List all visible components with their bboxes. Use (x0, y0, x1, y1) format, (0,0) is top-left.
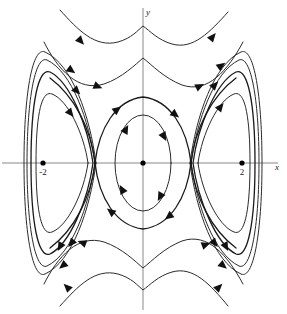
fixed-point-center-origin (140, 160, 145, 165)
tick-label-minus-two: -2 (39, 167, 47, 177)
fixed-point-center-left (40, 160, 45, 165)
x-axis-label: x (274, 162, 279, 172)
y-axis-label: y (145, 7, 150, 17)
fixed-point-center-right (239, 160, 244, 165)
tick-label-two: 2 (240, 167, 245, 177)
phase-portrait-svg: x y (0, 0, 287, 314)
phase-portrait-figure: x y (0, 0, 287, 314)
